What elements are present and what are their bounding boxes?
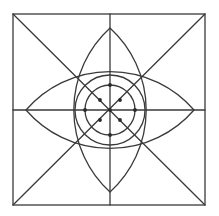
center-point <box>108 108 112 112</box>
right-point <box>133 108 137 112</box>
lower-right-point <box>118 118 122 122</box>
upper-right-point <box>118 98 122 102</box>
geometric-construction <box>0 0 219 216</box>
diagram-canvas <box>0 0 219 216</box>
bottom-point <box>108 133 112 137</box>
left-point <box>83 108 87 112</box>
upper-left-point <box>98 98 102 102</box>
top-point <box>108 83 112 87</box>
lower-left-point <box>98 118 102 122</box>
